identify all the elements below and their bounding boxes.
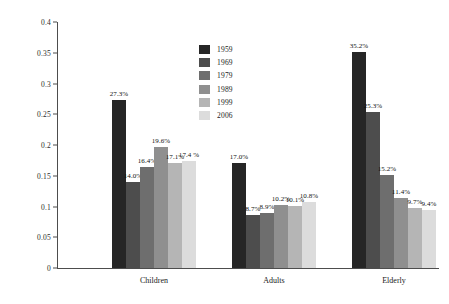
- bar-column[interactable]: 35.2%: [352, 22, 366, 268]
- bar-column[interactable]: 17.0%: [232, 22, 246, 268]
- legend-swatch: [199, 45, 210, 54]
- bar[interactable]: [422, 210, 436, 268]
- legend-item[interactable]: 1959: [199, 43, 233, 56]
- bar-value-label: 10.8%: [300, 193, 319, 200]
- chart-legend: 195919691979198919992006: [199, 43, 233, 122]
- bar-value-label: 17.4 %: [179, 152, 199, 159]
- bar-value-label: 8.9%: [260, 204, 275, 211]
- legend-label: 1989: [217, 85, 233, 94]
- bar-group: 35.2%25.3%15.2%11.4%9.7%9.4%: [352, 22, 436, 268]
- legend-label: 1959: [217, 45, 233, 54]
- legend-swatch: [199, 111, 210, 120]
- bar-column[interactable]: 10.1%: [288, 22, 302, 268]
- x-category-label: Children: [140, 276, 168, 285]
- bar-column[interactable]: 19.6%: [154, 22, 168, 268]
- bar[interactable]: [394, 198, 408, 268]
- legend-item[interactable]: 1969: [199, 56, 233, 69]
- bar[interactable]: [352, 52, 366, 268]
- legend-label: 1979: [217, 71, 233, 80]
- bar[interactable]: [288, 206, 302, 268]
- bar-column[interactable]: 9.4%: [422, 22, 436, 268]
- bar[interactable]: [260, 213, 274, 268]
- bar-group-bars: 35.2%25.3%15.2%11.4%9.7%9.4%: [352, 22, 436, 268]
- legend-swatch: [199, 71, 210, 80]
- legend-label: 1969: [217, 58, 233, 67]
- bar-column[interactable]: 17.4 %: [182, 22, 196, 268]
- bar[interactable]: [126, 182, 140, 268]
- bar-value-label: 9.4%: [422, 201, 437, 208]
- bar[interactable]: [408, 208, 422, 268]
- bar[interactable]: [182, 161, 196, 268]
- bar-column[interactable]: 10.8%: [302, 22, 316, 268]
- bar-column[interactable]: 9.7%: [408, 22, 422, 268]
- bar[interactable]: [274, 205, 288, 268]
- legend-label: 1999: [217, 98, 233, 107]
- bar-column[interactable]: 14.0%: [126, 22, 140, 268]
- legend-label: 2006: [217, 111, 233, 120]
- bar-group: 17.0%8.7%8.9%10.2%10.1%10.8%: [232, 22, 316, 268]
- bar-column[interactable]: 25.3%: [366, 22, 380, 268]
- y-tick-label: 0.15: [37, 171, 51, 180]
- y-tick-label: 0.4: [41, 18, 51, 27]
- bar-group-bars: 27.3%14.0%16.4%19.6%17.1%17.4 %: [112, 22, 196, 268]
- legend-item[interactable]: 1989: [199, 83, 233, 96]
- bar[interactable]: [112, 100, 126, 268]
- bar-column[interactable]: 8.9%: [260, 22, 274, 268]
- legend-item[interactable]: 1999: [199, 96, 233, 109]
- x-category-label: Adults: [263, 276, 284, 285]
- bar-column[interactable]: 15.2%: [380, 22, 394, 268]
- legend-swatch: [199, 85, 210, 94]
- bar-chart: 00.050.10.150.20.250.30.350.4 27.3%14.0%…: [0, 0, 449, 304]
- bar[interactable]: [366, 112, 380, 268]
- bar[interactable]: [168, 163, 182, 268]
- y-tick-label: 0: [47, 264, 51, 273]
- y-tick-label: 0.3: [41, 79, 51, 88]
- bar-value-label: 9.7%: [408, 199, 423, 206]
- plot-area: 27.3%14.0%16.4%19.6%17.1%17.4 %17.0%8.7%…: [57, 22, 439, 268]
- bar-group-bars: 17.0%8.7%8.9%10.2%10.1%10.8%: [232, 22, 316, 268]
- x-axis-line: [57, 268, 439, 269]
- bar-column[interactable]: 27.3%: [112, 22, 126, 268]
- bar[interactable]: [246, 215, 260, 269]
- bar[interactable]: [140, 167, 154, 268]
- bar-column[interactable]: 10.2%: [274, 22, 288, 268]
- legend-swatch: [199, 58, 210, 67]
- bar-column[interactable]: 11.4%: [394, 22, 408, 268]
- legend-swatch: [199, 98, 210, 107]
- bar-group: 27.3%14.0%16.4%19.6%17.1%17.4 %: [112, 22, 196, 268]
- bar-value-label: 8.7%: [246, 206, 261, 213]
- bar[interactable]: [302, 202, 316, 268]
- legend-item[interactable]: 1979: [199, 69, 233, 82]
- bar-column[interactable]: 17.1%: [168, 22, 182, 268]
- y-tick-label: 0.1: [41, 202, 51, 211]
- y-tick-label: 0.05: [37, 233, 51, 242]
- bar[interactable]: [154, 147, 168, 268]
- y-tick-label: 0.2: [41, 141, 51, 150]
- bar-column[interactable]: 8.7%: [246, 22, 260, 268]
- x-category-label: Elderly: [382, 276, 406, 285]
- y-tick-label: 0.35: [37, 48, 51, 57]
- y-tick-label: 0.25: [37, 110, 51, 119]
- legend-item[interactable]: 2006: [199, 109, 233, 122]
- bar[interactable]: [232, 163, 246, 268]
